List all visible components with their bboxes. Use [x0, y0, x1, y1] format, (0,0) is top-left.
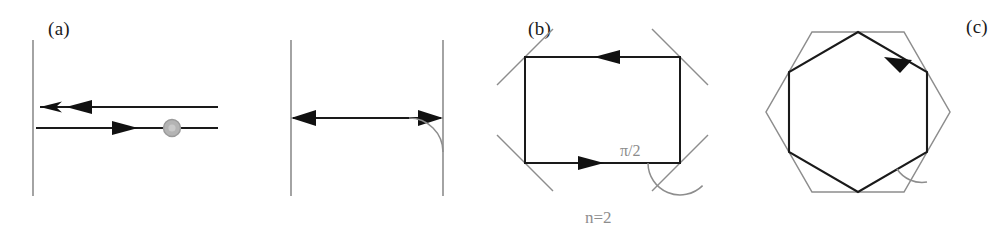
- angle-arc: [409, 118, 443, 152]
- panel-a-label: (a): [48, 18, 70, 40]
- arrowhead-left-icon: [291, 110, 316, 126]
- panel-b-drawing: [240, 0, 480, 248]
- panel-d-drawing: [720, 0, 988, 248]
- panel-c-drawing: [480, 0, 720, 248]
- arrowhead-bottom-right-icon: [578, 156, 604, 170]
- panel-c: (c) π/4 n=4: [480, 0, 720, 248]
- orbit-rectangle: [525, 57, 680, 163]
- cavity-hexagon-outer: [766, 32, 950, 192]
- billiard-orbits-figure: (a) (b) π/2 n=2: [0, 0, 988, 248]
- panel-b: (b) π/2 n=2: [240, 0, 480, 248]
- orbit-hexagon-inner: [789, 32, 927, 192]
- panel-d: (d) π/6 n=6: [720, 0, 988, 248]
- arrowhead-upleft-icon: [884, 57, 912, 73]
- arrowhead-right-icon: [112, 121, 138, 135]
- particle-ball-highlight: [168, 124, 175, 131]
- arrowhead-top-left-icon: [594, 50, 620, 64]
- panel-a-drawing: [0, 0, 240, 248]
- angle-arc: [897, 169, 927, 182]
- arrowhead-right-icon: [418, 110, 443, 126]
- panel-a: (a): [0, 0, 240, 248]
